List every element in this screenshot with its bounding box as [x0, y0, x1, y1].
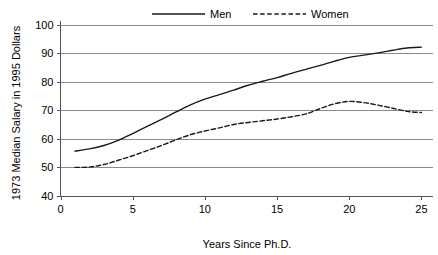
y-tick-label-90: 90: [41, 47, 53, 59]
y-tick-label-50: 50: [41, 161, 53, 173]
x-axis-title: Years Since Ph.D.: [203, 238, 292, 250]
data-series: [75, 47, 422, 167]
x-tick-label-10: 10: [199, 203, 211, 215]
y-tick-label-70: 70: [41, 104, 53, 116]
x-axis: [61, 196, 434, 200]
legend-label-men: Men: [210, 8, 231, 20]
y-tick-label-80: 80: [41, 76, 53, 88]
y-tick-labels: 405060708090100: [35, 19, 53, 202]
y-tick-label-60: 60: [41, 133, 53, 145]
y-tick-label-100: 100: [35, 19, 53, 31]
x-tick-label-15: 15: [271, 203, 283, 215]
legend-label-women: Women: [311, 8, 349, 20]
x-tick-label-0: 0: [57, 203, 63, 215]
y-tick-label-40: 40: [41, 190, 53, 202]
line-chart: 405060708090100 0510152025 MenWomen 1973…: [0, 0, 438, 255]
x-tick-labels: 0510152025: [57, 203, 427, 215]
series-line-men: [75, 47, 422, 151]
x-tick-label-25: 25: [415, 203, 427, 215]
series-line-women: [75, 101, 422, 167]
x-tick-label-5: 5: [130, 203, 136, 215]
gridlines: [61, 26, 434, 197]
x-tick-label-20: 20: [343, 203, 355, 215]
legend: MenWomen: [152, 8, 349, 20]
chart-container: 405060708090100 0510152025 MenWomen 1973…: [0, 0, 438, 255]
y-axis-title: 1973 Median Salary in 1995 Dollars: [10, 25, 22, 200]
y-axis: [57, 21, 61, 197]
